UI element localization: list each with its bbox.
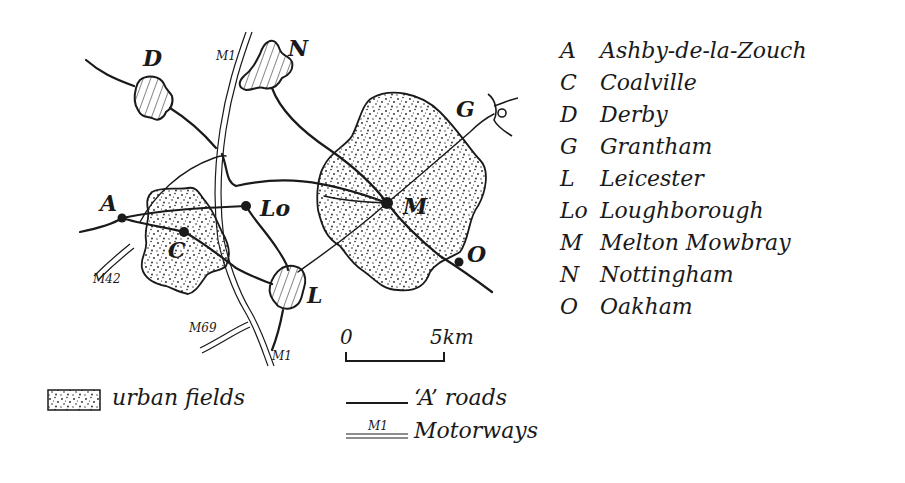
town-nottingham	[240, 41, 293, 90]
key-row: NNottingham	[560, 262, 807, 294]
key-name: Loughborough	[600, 198, 764, 223]
key-code: M	[560, 230, 600, 255]
key-name: Oakham	[600, 294, 693, 319]
key-name: Grantham	[600, 134, 712, 159]
label-M: M	[402, 193, 428, 219]
label-L: L	[306, 282, 322, 308]
key-code: A	[560, 38, 600, 63]
key-row: MMelton Mowbray	[560, 230, 807, 262]
key-code: L	[560, 166, 600, 191]
label-A: A	[98, 190, 117, 216]
legend-motorways: Motorways	[414, 418, 538, 443]
label-N: N	[287, 35, 309, 61]
motorway-swatch: M1	[346, 419, 408, 438]
legend-urban-fields: urban fields	[112, 385, 245, 410]
key-name: Leicester	[600, 166, 704, 191]
key-name: Derby	[600, 102, 668, 127]
key-name: Melton Mowbray	[600, 230, 791, 255]
label-m1-north: M1	[215, 49, 236, 63]
key-row: OOakham	[560, 294, 807, 326]
scale-bar: 0 5km	[340, 325, 474, 361]
key-code: O	[560, 294, 600, 319]
key-row: GGrantham	[560, 134, 807, 166]
label-G: G	[456, 96, 475, 122]
place-key: AAshby-de-la-Zouch CCoalville DDerby GGr…	[560, 38, 807, 326]
key-row: AAshby-de-la-Zouch	[560, 38, 807, 70]
key-code: G	[560, 134, 600, 159]
scale-end-label: 5km	[430, 325, 474, 349]
key-row: DDerby	[560, 102, 807, 134]
key-code: C	[560, 70, 600, 95]
key-code: N	[560, 262, 600, 287]
dot-melton	[381, 197, 393, 209]
key-name: Nottingham	[600, 262, 734, 287]
label-D: D	[142, 45, 162, 71]
dot-coalville	[179, 227, 189, 237]
key-name: Ashby-de-la-Zouch	[600, 38, 807, 63]
town-leicester	[269, 266, 305, 309]
label-O: O	[467, 241, 486, 267]
dot-ashby	[118, 214, 127, 223]
legend-motorways-label: Motorways	[414, 418, 538, 443]
key-code: Lo	[560, 198, 600, 223]
town-derby	[135, 77, 173, 120]
label-m69: M69	[188, 321, 217, 335]
key-row: LLeicester	[560, 166, 807, 198]
label-C: C	[168, 237, 186, 263]
dot-oakham	[455, 258, 464, 267]
key-row: LoLoughborough	[560, 198, 807, 230]
legend-urban-fields-label: urban fields	[112, 385, 245, 410]
scale-start-label: 0	[340, 325, 353, 349]
motorway-swatch-label: M1	[367, 419, 388, 433]
key-row: CCoalville	[560, 70, 807, 102]
urban-fields-swatch	[48, 390, 100, 410]
key-name: Coalville	[600, 70, 697, 95]
legend-a-roads: ‘A’ roads	[414, 385, 507, 410]
legend-a-roads-label: ‘A’ roads	[414, 385, 507, 410]
key-code: D	[560, 102, 600, 127]
label-m42: M42	[92, 272, 121, 286]
label-m1-south: M1	[271, 349, 292, 363]
dot-loughborough	[241, 201, 251, 211]
label-Lo: Lo	[259, 195, 290, 221]
